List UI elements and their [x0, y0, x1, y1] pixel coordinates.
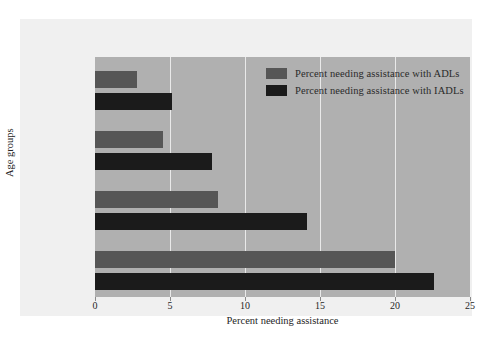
bar-iadl-65-69 — [95, 93, 172, 110]
bar-iadl-85-plus — [95, 273, 434, 290]
x-axis-title: Percent needing assistance — [95, 315, 470, 326]
chart-legend: Percent needing assistance with ADLs Per… — [266, 68, 464, 96]
legend-label-adl: Percent needing assistance with ADLs — [295, 68, 460, 79]
legend-label-iadl: Percent needing assistance with IADLs — [295, 85, 464, 96]
x-tick-label-20: 20 — [390, 300, 400, 311]
y-axis-title: Age groups — [4, 128, 15, 177]
legend-item-adl: Percent needing assistance with ADLs — [266, 68, 464, 79]
x-tick-label-15: 15 — [315, 300, 325, 311]
bar-adl-75-84 — [95, 191, 218, 208]
x-tick-label-5: 5 — [168, 300, 173, 311]
plot-area: Percent needing assistance with ADLs Per… — [95, 57, 470, 297]
bar-adl-70-74 — [95, 131, 163, 148]
bar-adl-85-plus — [95, 251, 395, 268]
legend-item-iadl: Percent needing assistance with IADLs — [266, 85, 464, 96]
figure-panel: Age groups 65–69 70–74 75–84 85+ Percent… — [20, 19, 472, 316]
legend-swatch-iadl-icon — [266, 85, 287, 96]
x-tick-label-25: 25 — [465, 300, 475, 311]
legend-swatch-adl-icon — [266, 68, 287, 79]
x-tick-label-10: 10 — [240, 300, 250, 311]
x-tick-label-0: 0 — [93, 300, 98, 311]
bar-iadl-70-74 — [95, 153, 212, 170]
bar-iadl-75-84 — [95, 213, 307, 230]
bar-adl-65-69 — [95, 71, 137, 88]
